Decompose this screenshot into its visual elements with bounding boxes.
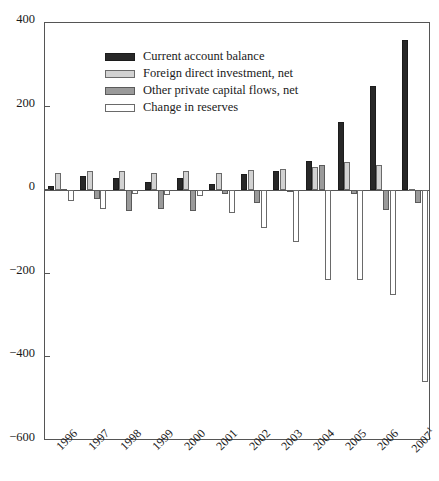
bar bbox=[280, 169, 286, 190]
legend-swatch-icon bbox=[105, 70, 135, 78]
bar bbox=[151, 173, 157, 190]
bar bbox=[126, 190, 132, 211]
bar bbox=[402, 40, 408, 190]
legend-item-label: Other private capital flows, net bbox=[143, 84, 298, 97]
y-axis: 4002000−200−400−600 bbox=[0, 0, 44, 481]
bar bbox=[55, 173, 61, 190]
legend-item: Foreign direct investment, net bbox=[105, 66, 345, 81]
bar bbox=[197, 190, 203, 196]
y-axis-tick-label: 200 bbox=[16, 97, 35, 109]
bar bbox=[119, 171, 125, 190]
y-axis-tick-mark bbox=[44, 356, 50, 357]
bar bbox=[306, 161, 312, 190]
legend-item-label: Current account balance bbox=[143, 50, 264, 63]
bar bbox=[409, 189, 415, 191]
plot-area: Current account balanceForeign direct in… bbox=[44, 22, 430, 440]
y-axis-tick-mark bbox=[44, 189, 50, 190]
x-axis-label-footnote: 1 bbox=[425, 425, 434, 434]
legend-item: Change in reserves bbox=[105, 100, 345, 115]
bar bbox=[273, 171, 279, 190]
bar bbox=[415, 190, 421, 203]
bar bbox=[344, 162, 350, 190]
bar bbox=[216, 173, 222, 190]
chart-legend: Current account balanceForeign direct in… bbox=[105, 49, 345, 117]
legend-swatch-icon bbox=[105, 87, 135, 95]
legend-item: Current account balance bbox=[105, 49, 345, 64]
bar bbox=[80, 176, 86, 191]
bar bbox=[241, 174, 247, 190]
bar bbox=[177, 178, 183, 191]
chart-root: Current account balanceForeign direct in… bbox=[0, 0, 439, 481]
bar bbox=[94, 190, 100, 198]
legend-swatch-icon bbox=[105, 53, 135, 61]
y-axis-tick-label: −400 bbox=[9, 347, 35, 359]
bar bbox=[61, 189, 67, 191]
bar bbox=[370, 86, 376, 191]
bar-group bbox=[45, 23, 77, 439]
bar bbox=[338, 122, 344, 190]
bar bbox=[390, 190, 396, 295]
bar bbox=[164, 190, 170, 195]
bar bbox=[351, 190, 357, 193]
y-axis-tick-mark bbox=[44, 106, 50, 107]
bar bbox=[293, 190, 299, 242]
y-axis-tick-mark bbox=[44, 273, 50, 274]
bar bbox=[319, 165, 325, 190]
bar bbox=[183, 171, 189, 190]
x-axis: 1996199719981999200020012002200320042005… bbox=[44, 440, 430, 481]
bar bbox=[100, 190, 106, 209]
legend-swatch-icon bbox=[105, 104, 135, 112]
bar bbox=[145, 182, 151, 190]
y-axis-tick-label: 0 bbox=[29, 180, 35, 192]
bar bbox=[132, 190, 138, 194]
bar bbox=[376, 165, 382, 190]
bar bbox=[422, 190, 428, 382]
bar bbox=[357, 190, 363, 280]
bar bbox=[287, 190, 293, 192]
bar bbox=[222, 190, 228, 193]
legend-item-label: Foreign direct investment, net bbox=[143, 67, 293, 80]
y-axis-tick-label: −200 bbox=[9, 264, 35, 276]
bar bbox=[87, 171, 93, 190]
y-axis-tick-label: −600 bbox=[9, 431, 35, 443]
bar bbox=[383, 190, 389, 210]
bar bbox=[248, 170, 254, 190]
bar bbox=[190, 190, 196, 211]
y-axis-tick-label: 400 bbox=[16, 13, 35, 25]
bar bbox=[325, 190, 331, 280]
bar bbox=[261, 190, 267, 228]
bar bbox=[312, 167, 318, 190]
bar bbox=[68, 190, 74, 200]
bar bbox=[158, 190, 164, 209]
bar bbox=[254, 190, 260, 203]
bar-group bbox=[367, 23, 399, 439]
legend-item-label: Change in reserves bbox=[143, 101, 238, 114]
bar bbox=[209, 184, 215, 190]
legend-item: Other private capital flows, net bbox=[105, 83, 345, 98]
bar-group bbox=[399, 23, 431, 439]
bar bbox=[113, 178, 119, 191]
bar bbox=[229, 190, 235, 213]
